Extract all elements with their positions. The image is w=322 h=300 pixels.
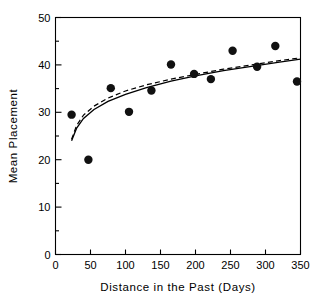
data-point [167, 60, 175, 68]
x-tick-label: 350 [291, 259, 309, 271]
data-point [107, 84, 115, 92]
x-tick-label: 200 [186, 259, 204, 271]
data-point [190, 70, 198, 78]
x-tick-label: 250 [221, 259, 239, 271]
scatter-plot: 01020304050 050100150200250300350 Distan… [0, 0, 322, 300]
x-tick-label: 0 [52, 259, 58, 271]
y-tick-label: 20 [38, 154, 50, 166]
x-tick-label: 150 [151, 259, 169, 271]
data-point [147, 86, 155, 94]
data-point [67, 110, 75, 118]
data-point [84, 156, 92, 164]
chart-container: 01020304050 050100150200250300350 Distan… [0, 0, 322, 300]
x-tick-label: 50 [84, 259, 96, 271]
x-tick-label: 100 [116, 259, 134, 271]
data-point [271, 42, 279, 50]
y-axis-title: Mean Placement [7, 88, 19, 183]
data-point [207, 75, 215, 83]
data-point [125, 108, 133, 116]
x-tick-label: 300 [256, 259, 274, 271]
data-point [253, 63, 261, 71]
x-axis-title: Distance in the Past (Days) [100, 281, 256, 293]
y-tick-label: 50 [38, 12, 50, 24]
y-tick-label: 40 [38, 59, 50, 71]
data-point [293, 77, 301, 85]
data-point [228, 46, 236, 54]
y-tick-label: 0 [44, 249, 50, 261]
y-tick-label: 30 [38, 106, 50, 118]
y-tick-label: 10 [38, 201, 50, 213]
